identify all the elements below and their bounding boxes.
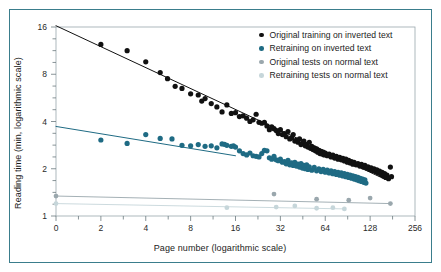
legend-item: Retraining tests on normal text: [259, 69, 427, 83]
legend-item-label: Retraining on inverted text: [270, 43, 372, 53]
y-tick-label: 4: [25, 117, 47, 127]
chart-legend: Original training on inverted textRetrai…: [259, 28, 427, 82]
x-tick-label: 32: [265, 223, 295, 233]
y-tick-label: 8: [25, 69, 47, 79]
y-axis-title: Reading time (min, logarithmic scale): [13, 53, 23, 213]
legend-item-label: Original training on inverted text: [270, 30, 393, 40]
y-tick-label: 2: [25, 164, 47, 174]
legend-item: Original training on inverted text: [259, 28, 427, 42]
legend-item-label: Original tests on normal text: [270, 57, 378, 67]
x-tick-label: 256: [400, 223, 430, 233]
x-tick-label: 2: [86, 223, 116, 233]
x-tick-label: 8: [176, 223, 206, 233]
legend-item: Retraining on inverted text: [259, 42, 427, 56]
x-tick-label: 128: [355, 223, 385, 233]
legend-marker-icon: [259, 60, 264, 65]
legend-marker-icon: [259, 73, 264, 78]
y-tick-label: 1: [25, 211, 47, 221]
legend-marker-icon: [259, 46, 264, 51]
legend-item: Original tests on normal text: [259, 55, 427, 69]
legend-marker-icon: [259, 33, 264, 38]
legend-item-label: Retraining tests on normal text: [270, 70, 388, 80]
y-tick-label: 16: [25, 22, 47, 32]
x-tick-label: 64: [310, 223, 340, 233]
x-tick-label: 0: [41, 223, 71, 233]
x-axis-title: Page number (logarithmic scale): [120, 243, 320, 253]
x-tick-label: 4: [131, 223, 161, 233]
x-tick-label: 16: [221, 223, 251, 233]
